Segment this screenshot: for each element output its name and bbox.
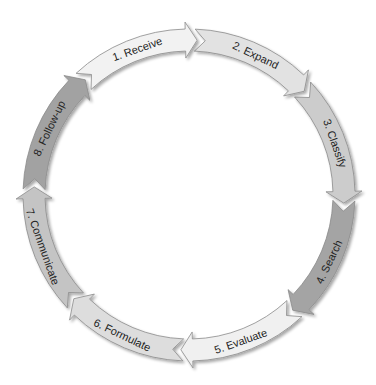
cycle-arrow-8: [23, 76, 90, 190]
cycle-diagram: 1. Receive2. Expand3. Classify4. Search5…: [0, 0, 376, 385]
cycle-ring: 1. Receive2. Expand3. Classify4. Search5…: [0, 0, 376, 385]
cycle-arrow-3: [295, 82, 362, 203]
cycle-arrow-1: [76, 22, 197, 89]
cycle-arrow-4: [288, 200, 355, 314]
cycle-arrow-2: [194, 29, 308, 96]
cycle-arrow-6: [70, 294, 184, 361]
